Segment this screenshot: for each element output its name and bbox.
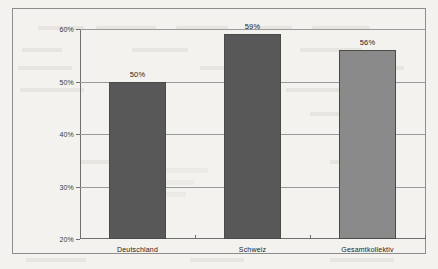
bar-value-label: 50% [130, 70, 146, 79]
bar-gesamtkollektiv[interactable] [339, 50, 396, 239]
bar-group[interactable]: 50%Deutschland [109, 82, 166, 240]
y-axis-tick-mark [76, 187, 80, 188]
scan-artifact [26, 258, 86, 262]
x-axis-tick-mark [310, 235, 311, 239]
y-axis-tick-label: 60% [59, 26, 74, 33]
bar-value-label: 59% [245, 22, 261, 31]
plot-area: 20%30%40%50%60% 50%Deutschland59%Schweiz… [80, 29, 425, 239]
y-axis-tick-label: 40% [59, 131, 74, 138]
x-axis-category-label: Deutschland [117, 246, 158, 253]
x-axis-tick-mark [195, 235, 196, 239]
bar-group[interactable]: 59%Schweiz [224, 34, 281, 239]
x-axis-category-label: Schweiz [239, 246, 266, 253]
y-axis-tick-mark [76, 239, 80, 240]
bar-group[interactable]: 56%Gesamtkollektiv [339, 50, 396, 239]
x-axis-category-label: Gesamtkollektiv [341, 246, 393, 253]
x-axis-tick-mark [425, 235, 426, 239]
scanned-page-background: 20%30%40%50%60% 50%Deutschland59%Schweiz… [0, 0, 438, 269]
bar-schweiz[interactable] [224, 34, 281, 239]
bar-value-label: 56% [360, 38, 376, 47]
y-axis-tick-mark [76, 82, 80, 83]
y-axis-tick-mark [76, 134, 80, 135]
scan-artifact [330, 258, 394, 262]
scan-artifact [190, 258, 244, 262]
y-axis-tick-mark [76, 29, 80, 30]
bar-deutschland[interactable] [109, 82, 166, 240]
y-axis-tick-label: 50% [59, 78, 74, 85]
y-axis-tick-label: 20% [59, 236, 74, 243]
chart-border-frame: 20%30%40%50%60% 50%Deutschland59%Schweiz… [12, 8, 426, 254]
y-axis-tick-label: 30% [59, 183, 74, 190]
